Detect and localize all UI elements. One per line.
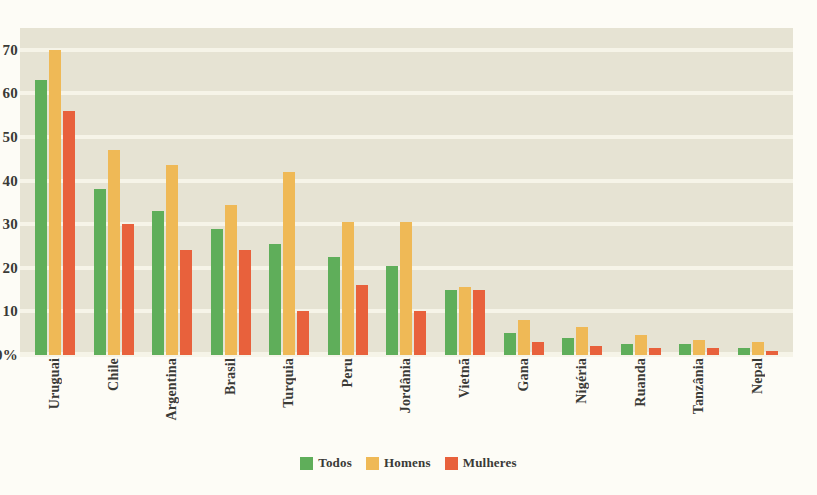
x-axis-tick-label: Tanzânia [691,358,707,414]
bar-gana-todos [504,333,516,355]
legend-swatch-icon [445,457,458,470]
x-axis-tick-label: Argentina [164,358,180,420]
bar-vietnã-homens [459,287,471,355]
x-axis-label-cell: Ruanda [611,358,670,448]
bar-group [319,28,378,355]
legend-item-mulheres: Mulheres [445,455,517,471]
bar-argentina-mulheres [180,250,192,355]
bar-peru-mulheres [356,285,368,355]
bar-nigéria-todos [562,338,574,355]
bar-uruguai-mulheres [63,111,75,355]
y-axis-tick-label: 40 [2,172,18,189]
bar-peru-homens [342,222,354,355]
x-axis-label-cell: Gana [494,358,553,448]
x-axis-tick-label: Turquia [281,358,297,408]
bar-argentina-homens [166,165,178,355]
bar-chart: 0%10203040506070 UruguaiChileArgentinaBr… [0,0,817,495]
bar-jordânia-mulheres [414,311,426,355]
bar-uruguai-todos [35,80,47,355]
legend-label: Mulheres [463,455,517,471]
x-axis-tick-label: Gana [516,358,532,391]
y-axis-tick-label: 10 [2,303,18,320]
x-axis-label-cell: Nigéria [553,358,612,448]
x-axis-label-cell: Argentina [143,358,202,448]
bar-gana-mulheres [532,342,544,355]
x-axis-label-cell: Jordânia [377,358,436,448]
bar-argentina-todos [152,211,164,355]
bar-ruanda-todos [621,344,633,355]
legend-item-homens: Homens [366,455,431,471]
x-axis-label-cell: Vietnã [436,358,495,448]
bar-tanzânia-mulheres [707,348,719,355]
x-axis-label-cell: Tanzânia [670,358,729,448]
bar-group [143,28,202,355]
bar-vietnã-todos [445,290,457,355]
bar-group [202,28,261,355]
x-axis-tick-label: Peru [340,358,356,388]
bar-group [377,28,436,355]
bar-nigéria-mulheres [590,346,602,355]
y-axis-tick-label: 60 [2,85,18,102]
bar-brasil-homens [225,205,237,355]
bar-chile-todos [94,189,106,355]
bar-chile-mulheres [122,224,134,355]
legend-swatch-icon [300,457,313,470]
legend-label: Todos [318,455,352,471]
y-axis-tick-label: 0% [0,347,18,364]
x-axis-tick-label: Vietnã [457,358,473,398]
x-axis-label-cell: Peru [319,358,378,448]
bar-brasil-todos [211,229,223,355]
chart-legend: TodosHomensMulheres [0,455,817,471]
x-axis-tick-label: Nepal [750,358,766,394]
legend-item-todos: Todos [300,455,352,471]
x-axis-label-cell: Nepal [728,358,787,448]
x-axis-tick-label: Chile [106,358,122,391]
bar-nigéria-homens [576,327,588,355]
x-axis-tick-label: Uruguai [47,358,63,409]
bar-uruguai-homens [49,50,61,355]
x-axis-label-cell: Brasil [202,358,261,448]
bar-nepal-mulheres [766,351,778,355]
bar-nepal-homens [752,342,764,355]
bar-group [260,28,319,355]
bar-peru-todos [328,257,340,355]
bar-group [728,28,787,355]
bar-group [26,28,85,355]
legend-swatch-icon [366,457,379,470]
y-axis: 0%10203040506070 [0,28,20,355]
bar-group [611,28,670,355]
bar-chile-homens [108,150,120,355]
y-axis-tick-label: 70 [2,41,18,58]
bar-gana-homens [518,320,530,355]
bar-turquia-homens [283,172,295,355]
x-axis-labels: UruguaiChileArgentinaBrasilTurquiaPeruJo… [20,358,793,448]
bar-group [436,28,495,355]
bar-tanzânia-todos [679,344,691,355]
x-axis-tick-label: Jordânia [398,358,414,413]
bar-ruanda-mulheres [649,348,661,355]
bar-jordânia-todos [386,266,398,355]
y-axis-tick-label: 20 [2,259,18,276]
x-axis-label-cell: Turquia [260,358,319,448]
x-axis-tick-label: Brasil [223,358,239,395]
x-axis-label-cell: Chile [85,358,144,448]
bar-tanzânia-homens [693,340,705,355]
bar-nepal-todos [738,348,750,355]
bar-ruanda-homens [635,335,647,355]
bar-vietnã-mulheres [473,290,485,355]
bar-brasil-mulheres [239,250,251,355]
legend-label: Homens [384,455,431,471]
x-axis-tick-label: Ruanda [633,358,649,407]
bar-group [670,28,729,355]
bar-groups [20,28,793,355]
bar-turquia-todos [269,244,281,355]
bar-group [553,28,612,355]
x-axis-tick-label: Nigéria [574,358,590,404]
bar-turquia-mulheres [297,311,309,355]
y-axis-tick-label: 30 [2,216,18,233]
y-axis-tick-label: 50 [2,129,18,146]
bar-group [85,28,144,355]
bar-jordânia-homens [400,222,412,355]
bar-group [494,28,553,355]
x-axis-label-cell: Uruguai [26,358,85,448]
